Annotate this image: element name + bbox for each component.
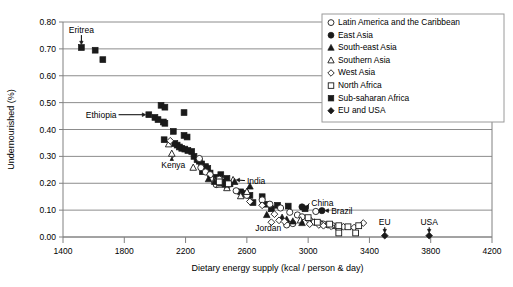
legend-label-north-africa: North Africa (338, 80, 382, 90)
data-point-latin-america-and-the-caribbean (267, 201, 273, 207)
y-tick-label: 0.20 (39, 178, 56, 188)
y-tick-label: 0.10 (39, 205, 56, 215)
data-point-sub-saharan-africa (170, 128, 176, 134)
data-point-sub-saharan-africa (100, 57, 106, 63)
data-point-latin-america-and-the-caribbean (313, 208, 319, 214)
annotation-arrowhead-eu (383, 229, 386, 232)
data-point-north-africa (345, 224, 351, 230)
annotation-label-brazil: Brazil (331, 206, 352, 216)
x-tick-label: 2200 (176, 246, 195, 256)
legend-label-sub-saharan-africa: Sub-saharan Africa (338, 93, 410, 103)
legend-marker-sub-saharan-africa (328, 95, 334, 101)
data-point-north-africa (226, 181, 232, 187)
data-point-latin-america-and-the-caribbean (233, 188, 239, 194)
data-point-sub-saharan-africa (181, 110, 187, 116)
data-point-latin-america-and-the-caribbean (277, 205, 283, 211)
legend-label-southern-asia: Southern Asia (338, 55, 390, 65)
legend-marker-latin-america-and-the-caribbean (328, 20, 334, 26)
x-tick-label: 3800 (421, 246, 440, 256)
data-point-sub-saharan-africa (78, 45, 84, 51)
y-tick-label: 0.40 (39, 125, 56, 135)
data-point-north-africa (327, 221, 333, 227)
legend-label-eu-and-usa: EU and USA (338, 105, 386, 115)
x-axis-title: Dietary energy supply (kcal / person & d… (191, 263, 363, 273)
annotation-arrowhead-eritrea (80, 41, 83, 44)
data-point-sub-saharan-africa (184, 134, 190, 140)
data-point-north-africa (305, 215, 311, 221)
annotation-label-ethiopia: Ethiopia (86, 110, 117, 120)
scatter-plot: 0.000.100.200.300.400.500.600.700.801400… (0, 0, 513, 287)
data-point-sub-saharan-africa (146, 112, 152, 118)
annotation-label-jordan: Jordan (255, 223, 281, 233)
x-tick-label: 2600 (237, 246, 256, 256)
annotation-label-usa: USA (420, 217, 438, 227)
annotation-arrowhead-brazil (325, 209, 328, 213)
y-tick-label: 0.70 (39, 44, 56, 54)
annotation-arrowhead-usa (427, 229, 430, 232)
data-point-north-africa (356, 223, 362, 229)
x-tick-label: 3000 (299, 246, 318, 256)
y-tick-label: 0.00 (39, 232, 56, 242)
y-tick-label: 0.60 (39, 71, 56, 81)
chart-figure: 0.000.100.200.300.400.500.600.700.801400… (0, 0, 513, 287)
annotation-arrowhead-ethiopia (142, 113, 145, 117)
y-tick-label: 0.80 (39, 17, 56, 27)
annotation-label-kenya: Kenya (161, 160, 185, 170)
x-tick-label: 1800 (115, 246, 134, 256)
legend-marker-east-asia (328, 32, 334, 38)
data-point-southern-asia (190, 164, 197, 170)
data-point-north-africa (353, 230, 359, 236)
x-tick-label: 1400 (54, 246, 73, 256)
legend-label-south-east-asia: South-east Asia (338, 42, 397, 52)
y-axis-title: Undernourished (%) (6, 89, 16, 170)
legend-label-east-asia: East Asia (338, 30, 373, 40)
x-tick-label: 4200 (483, 246, 502, 256)
data-point-sub-saharan-africa (161, 137, 167, 143)
data-point-east-asia (319, 208, 325, 214)
data-point-sub-saharan-africa (92, 47, 98, 53)
annotation-label-eritrea: Eritrea (69, 25, 94, 35)
x-tick-label: 3400 (360, 246, 379, 256)
data-point-latin-america-and-the-caribbean (196, 155, 202, 161)
data-point-sub-saharan-africa (162, 120, 168, 126)
legend-marker-north-africa (328, 83, 334, 89)
data-point-north-africa (336, 230, 342, 236)
annotation-label-india: India (247, 176, 266, 186)
data-point-sub-saharan-africa (162, 104, 168, 110)
y-tick-label: 0.30 (39, 151, 56, 161)
data-point-north-africa (216, 179, 222, 185)
y-tick-label: 0.50 (39, 98, 56, 108)
data-point-latin-america-and-the-caribbean (287, 209, 293, 215)
data-point-south-east-asia (263, 211, 270, 217)
data-point-north-africa (314, 219, 320, 225)
data-point-sub-saharan-africa (155, 117, 161, 123)
annotation-arrowhead-india (236, 178, 239, 182)
data-point-southern-asia (168, 150, 175, 156)
data-point-east-asia (299, 204, 305, 210)
annotation-label-eu: EU (379, 217, 391, 227)
data-point-north-africa (336, 223, 342, 229)
data-point-sub-saharan-africa (285, 203, 291, 209)
legend-label-west-asia: West Asia (338, 67, 375, 77)
legend-label-latin-america-and-the-caribbean: Latin America and the Caribbean (338, 17, 460, 27)
